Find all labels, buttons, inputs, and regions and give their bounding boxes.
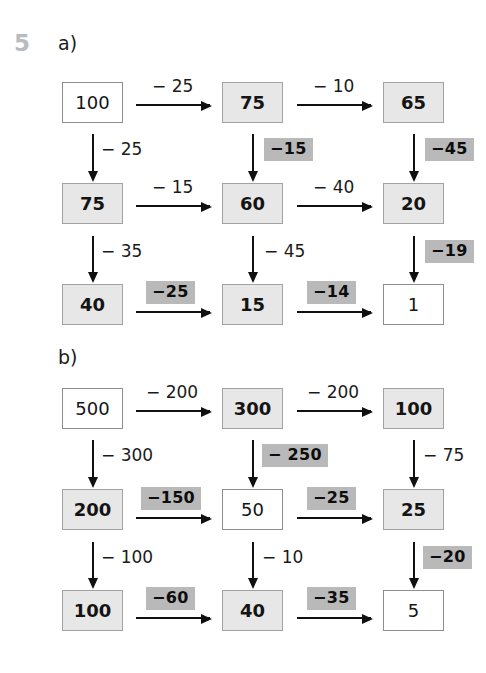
arrow-b-r1-2 xyxy=(297,410,371,412)
arrow-b-r3-2 xyxy=(297,617,371,619)
arrow-b-c2-2 xyxy=(252,542,254,579)
op-label-a-v-c1-2: − 35 xyxy=(101,243,142,260)
arrow-a-c2-2 xyxy=(252,236,254,273)
arrow-b-r1-1 xyxy=(136,410,210,412)
value-box-b-r2c2[interactable]: 50 xyxy=(222,489,283,530)
arrow-b-r2-1 xyxy=(136,517,210,519)
arrow-b-c1-1 xyxy=(92,440,94,478)
op-label-a-h-r1-1: − 25 xyxy=(152,78,193,95)
value-box-b-r2c1[interactable]: 200 xyxy=(62,489,123,530)
value-box-a-r1c1[interactable]: 100 xyxy=(62,82,123,123)
op-label-b-v-c2-1: − 250 xyxy=(262,444,328,467)
arrow-a-r1-2 xyxy=(297,104,371,106)
value-box-a-r3c2[interactable]: 15 xyxy=(222,284,283,325)
arrow-a-c2-1 xyxy=(252,134,254,172)
arrow-b-c3-1 xyxy=(413,440,415,478)
arrow-a-r1-1 xyxy=(136,104,210,106)
arrow-a-c3-1 xyxy=(413,134,415,172)
op-label-b-v-c3-1: − 75 xyxy=(423,447,464,464)
op-label-b-v-c3-2: −20 xyxy=(423,546,472,569)
arrow-a-c3-2 xyxy=(413,236,415,273)
part-label-b: b) xyxy=(58,348,77,367)
op-label-b-v-c2-2: − 10 xyxy=(262,549,303,566)
value-box-b-r3c1[interactable]: 100 xyxy=(62,590,123,631)
value-box-a-r3c1[interactable]: 40 xyxy=(62,284,123,325)
worksheet-page: 5 a) 100 75 65 75 60 20 40 15 1 − 25 − 1… xyxy=(0,0,486,673)
op-label-b-v-c1-2: − 100 xyxy=(101,549,153,566)
op-label-a-h-r3-2: −14 xyxy=(307,281,356,304)
op-label-a-v-c2-2: − 45 xyxy=(264,243,305,260)
op-label-a-h-r2-2: − 40 xyxy=(313,179,354,196)
op-label-b-h-r3-1: −60 xyxy=(146,587,195,610)
value-box-a-r2c2[interactable]: 60 xyxy=(222,183,283,224)
arrow-a-r2-2 xyxy=(297,205,371,207)
arrow-a-r2-1 xyxy=(136,205,210,207)
op-label-a-v-c3-1: −45 xyxy=(425,138,474,161)
value-box-a-r1c2[interactable]: 75 xyxy=(222,82,283,123)
value-box-a-r2c1[interactable]: 75 xyxy=(62,183,123,224)
op-label-a-h-r2-1: − 15 xyxy=(152,179,193,196)
arrow-b-c3-2 xyxy=(413,542,415,579)
op-label-b-v-c1-1: − 300 xyxy=(101,447,153,464)
op-label-b-h-r3-2: −35 xyxy=(307,587,356,610)
op-label-a-h-r3-1: −25 xyxy=(146,281,195,304)
value-box-b-r3c3[interactable]: 5 xyxy=(383,590,444,631)
value-box-b-r1c2[interactable]: 300 xyxy=(222,388,283,429)
value-box-a-r2c3[interactable]: 20 xyxy=(383,183,444,224)
op-label-a-v-c3-2: −19 xyxy=(425,240,474,263)
arrow-a-r3-2 xyxy=(297,311,371,313)
arrow-a-r3-1 xyxy=(136,311,210,313)
value-box-a-r3c3[interactable]: 1 xyxy=(383,284,444,325)
op-label-a-v-c1-1: − 25 xyxy=(101,141,142,158)
value-box-b-r3c2[interactable]: 40 xyxy=(222,590,283,631)
arrow-b-c2-1 xyxy=(252,440,254,478)
op-label-b-h-r1-2: − 200 xyxy=(307,384,359,401)
op-label-a-v-c2-1: −15 xyxy=(264,138,313,161)
value-box-b-r1c1[interactable]: 500 xyxy=(62,388,123,429)
exercise-number: 5 xyxy=(14,32,31,55)
arrow-b-c1-2 xyxy=(92,542,94,579)
part-label-a: a) xyxy=(58,34,77,53)
arrow-a-c1-2 xyxy=(92,236,94,273)
value-box-b-r1c3[interactable]: 100 xyxy=(383,388,444,429)
value-box-a-r1c3[interactable]: 65 xyxy=(383,82,444,123)
value-box-b-r2c3[interactable]: 25 xyxy=(383,489,444,530)
arrow-b-r3-1 xyxy=(136,617,210,619)
op-label-b-h-r2-2: −25 xyxy=(307,487,356,510)
arrow-b-r2-2 xyxy=(297,517,371,519)
op-label-b-h-r2-1: −150 xyxy=(141,487,201,510)
op-label-a-h-r1-2: − 10 xyxy=(313,78,354,95)
op-label-b-h-r1-1: − 200 xyxy=(146,384,198,401)
arrow-a-c1-1 xyxy=(92,134,94,172)
